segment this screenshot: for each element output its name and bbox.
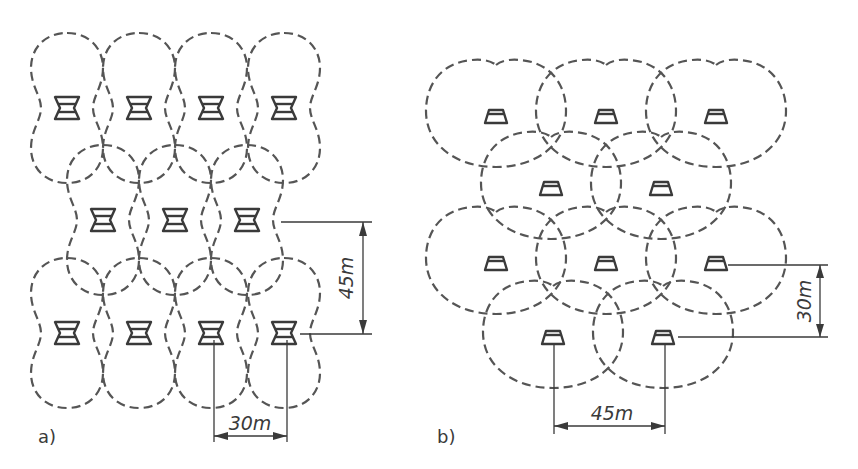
panel-label-a: a) (38, 426, 56, 447)
bidirectional-speaker-icon (272, 322, 296, 344)
bidirectional-speaker-icon (163, 209, 187, 231)
dimension-label-30m-b: 30m (793, 280, 815, 323)
unidirectional-speaker-icon (485, 110, 507, 123)
bidirectional-speaker-icon (272, 97, 296, 119)
unidirectional-speaker-icon (540, 182, 562, 195)
unidirectional-speaker-icon (542, 331, 564, 344)
unidirectional-speaker-icon (485, 257, 507, 270)
bidirectional-speaker-icon (235, 209, 259, 231)
dimension-vertical-b: 30m (678, 265, 828, 337)
panel-label-b: b) (437, 426, 455, 447)
bidirectional-speaker-icon (55, 322, 79, 344)
unidirectional-speaker-icon (705, 257, 727, 270)
speaker-coverage-diagram: 45m 30m a) (0, 0, 858, 469)
unidirectional-speaker-icon (650, 182, 672, 195)
bidirectional-speaker-icon (91, 209, 115, 231)
unidirectional-speaker-icon (595, 257, 617, 270)
bidirectional-speaker-icon (199, 322, 223, 344)
bidirectional-speaker-icon (127, 97, 151, 119)
panel-a: 45m 30m a) (31, 33, 372, 447)
dimension-label-45m-b: 45m (591, 402, 634, 424)
unidirectional-speaker-icon (652, 331, 674, 344)
speaker-icons-a (55, 97, 296, 344)
bidirectional-speaker-icon (55, 97, 79, 119)
unidirectional-speaker-icon (705, 110, 727, 123)
bidirectional-speaker-icon (199, 97, 223, 119)
dimension-horizontal-b: 45m (554, 344, 665, 434)
dimension-label-45m: 45m (335, 257, 357, 300)
unidirectional-speaker-icon (595, 110, 617, 123)
dimension-vertical-a: 45m (281, 222, 372, 334)
coverage-lobes-a (31, 33, 320, 408)
panel-b: 30m 45m b) (426, 60, 828, 447)
dimension-label-30m: 30m (229, 412, 272, 434)
bidirectional-speaker-icon (127, 322, 151, 344)
